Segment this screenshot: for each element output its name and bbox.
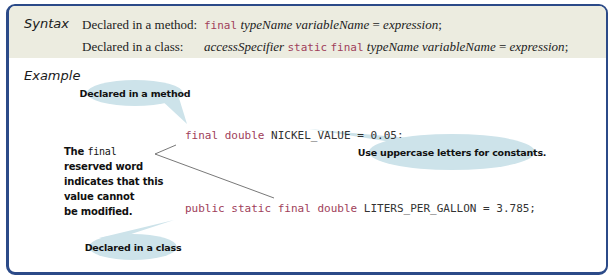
- note-text: be modified.: [64, 204, 163, 219]
- note-text: indicates that this: [64, 174, 163, 189]
- syntax-box: Syntax Declared in a method: final typeN…: [6, 4, 608, 275]
- code-line-nickel: final double NICKEL_VALUE = 0.05;: [185, 129, 404, 142]
- callout-declared-in-method: Declared in a method: [87, 80, 183, 106]
- note-text: reserved word: [64, 159, 163, 174]
- code-rest: LITERS_PER_GALLON = 3.785;: [357, 202, 536, 215]
- callout-declared-in-class: Declared in a class: [89, 234, 177, 260]
- note-code-final: final: [87, 146, 116, 157]
- note-final-reserved-word: The final reserved word indicates that t…: [64, 144, 163, 219]
- code-keywords: final double: [185, 129, 264, 142]
- code-keywords: public static final double: [185, 202, 357, 215]
- note-text: The: [64, 146, 87, 157]
- code-rest: NICKEL_VALUE = 0.05;: [264, 129, 403, 142]
- callout-uppercase-constants: Use uppercase letters for constants.: [369, 134, 535, 170]
- note-text: value cannot: [64, 189, 163, 204]
- code-line-liters: public static final double LITERS_PER_GA…: [185, 202, 536, 215]
- pointer-line-2: [155, 154, 274, 198]
